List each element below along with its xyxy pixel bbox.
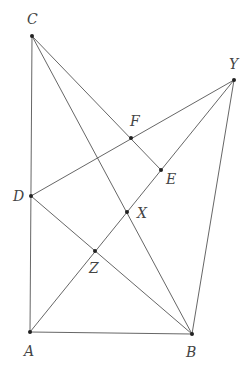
segments-group xyxy=(30,36,234,334)
label-x: X xyxy=(136,205,148,221)
point-d xyxy=(29,194,33,198)
segment-ab xyxy=(30,332,192,334)
point-y xyxy=(232,78,236,82)
geometry-diagram: CYFEDXZAB xyxy=(0,0,252,368)
label-d: D xyxy=(12,188,24,204)
point-x xyxy=(125,210,129,214)
label-e: E xyxy=(165,171,176,187)
point-c xyxy=(30,34,34,38)
label-f: F xyxy=(129,113,141,129)
point-z xyxy=(93,249,97,253)
point-b xyxy=(190,332,194,336)
label-b: B xyxy=(185,344,196,360)
label-y: Y xyxy=(229,56,240,72)
label-a: A xyxy=(22,343,34,359)
segment-by xyxy=(192,80,234,334)
point-e xyxy=(159,168,163,172)
label-c: C xyxy=(27,11,38,27)
segment-db xyxy=(31,196,192,334)
segment-ce xyxy=(32,36,161,170)
label-z: Z xyxy=(88,260,99,276)
point-f xyxy=(129,136,133,140)
points-group xyxy=(28,34,236,336)
segment-ca xyxy=(30,36,32,332)
point-a xyxy=(28,330,32,334)
